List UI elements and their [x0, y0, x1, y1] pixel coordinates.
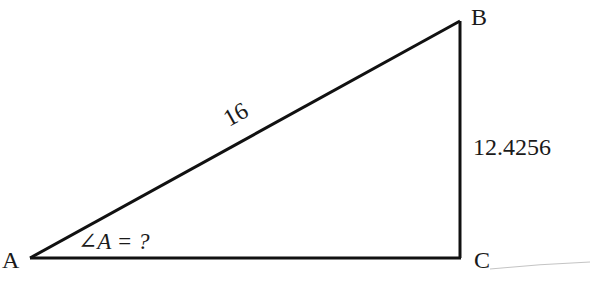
- angle-A-annotation: ∠A = ?: [78, 229, 150, 254]
- triangle-shape: [30, 21, 461, 258]
- scan-artifact-line: [490, 262, 590, 269]
- vertex-label-A: A: [2, 247, 20, 273]
- side-label-BC: 12.4256: [473, 134, 551, 160]
- triangle-canvas: A B C 16 12.4256 ∠A = ?: [0, 0, 591, 290]
- side-label-AB: 16: [219, 97, 253, 131]
- triangle-diagram: A B C 16 12.4256 ∠A = ?: [0, 0, 591, 290]
- side-AB-hypotenuse: [30, 21, 460, 258]
- vertex-label-B: B: [471, 4, 487, 30]
- vertex-label-C: C: [474, 247, 490, 273]
